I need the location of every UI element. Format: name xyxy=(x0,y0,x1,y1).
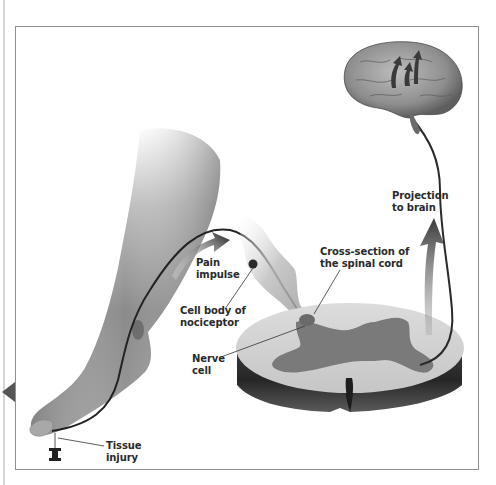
pain-pathway-illustration xyxy=(0,0,496,485)
tack-icon xyxy=(49,433,61,461)
label-cross-section: Cross-section of the spinal cord xyxy=(320,246,409,270)
label-projection-to-brain: Projection to brain xyxy=(392,190,448,214)
brain xyxy=(344,42,462,134)
label-tissue-injury: Tissue injury xyxy=(106,440,141,464)
label-pain-impulse: Pain impulse xyxy=(196,257,240,281)
dorsal-root-ganglion xyxy=(238,215,310,322)
leg-and-foot xyxy=(30,128,220,436)
label-nerve-cell: Nerve cell xyxy=(192,353,225,377)
cell-body-dot xyxy=(249,260,258,269)
label-cell-body-of-nociceptor: Cell body of nociceptor xyxy=(180,305,246,329)
